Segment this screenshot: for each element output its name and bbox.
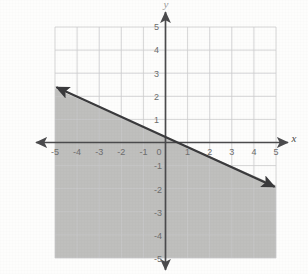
x-tick-3: 3 bbox=[229, 147, 234, 157]
y-tick--1: -1 bbox=[154, 161, 162, 171]
x-tick-2: 2 bbox=[207, 147, 212, 157]
x-tick--2: -2 bbox=[117, 147, 125, 157]
x-tick--5: -5 bbox=[51, 147, 59, 157]
x-tick-1: 1 bbox=[185, 147, 190, 157]
x-tick-4: 4 bbox=[251, 147, 256, 157]
x-tick--1: -1 bbox=[139, 147, 147, 157]
y-axis-label: y bbox=[163, 0, 169, 10]
y-tick-3: 3 bbox=[154, 69, 159, 79]
origin-label: 0 bbox=[156, 147, 161, 157]
x-axis-label: x bbox=[291, 132, 297, 144]
x-tick--4: -4 bbox=[73, 147, 81, 157]
y-tick-5: 5 bbox=[154, 22, 159, 32]
y-tick--5: -5 bbox=[154, 254, 162, 264]
y-tick--4: -4 bbox=[154, 231, 162, 241]
y-tick--3: -3 bbox=[154, 208, 162, 218]
x-tick-5: 5 bbox=[273, 147, 278, 157]
worksheet-page: 9. bbox=[0, 0, 308, 274]
y-tick-2: 2 bbox=[154, 92, 159, 102]
graph-svg: -5 -4 -3 -2 -1 0 1 2 3 4 5 1 2 3 4 5 -1 … bbox=[0, 0, 308, 274]
y-tick--2: -2 bbox=[154, 185, 162, 195]
y-tick-1: 1 bbox=[154, 115, 159, 125]
y-tick-4: 4 bbox=[154, 45, 159, 55]
x-tick--3: -3 bbox=[95, 147, 103, 157]
coordinate-graph: -5 -4 -3 -2 -1 0 1 2 3 4 5 1 2 3 4 5 -1 … bbox=[0, 0, 308, 274]
